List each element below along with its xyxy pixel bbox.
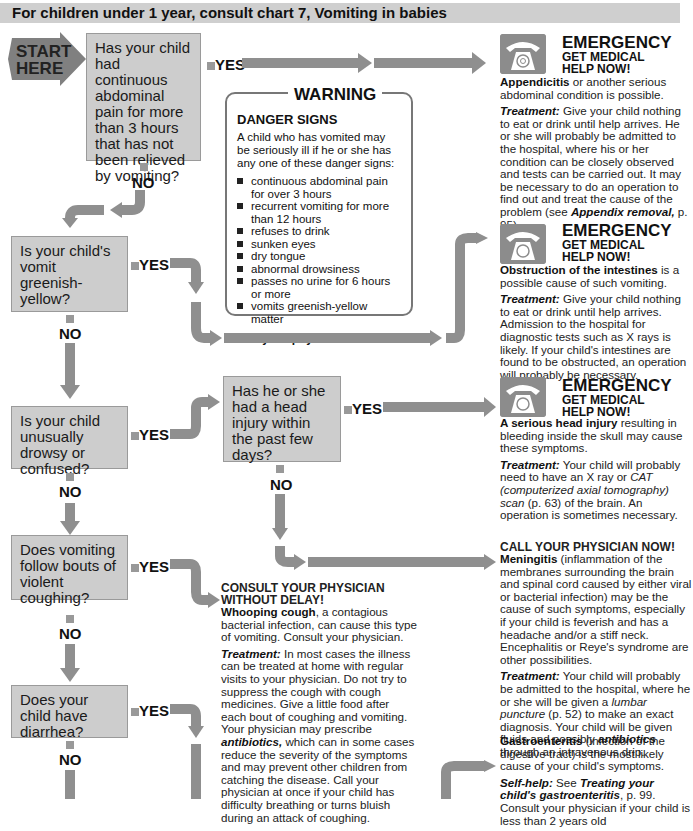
question-diarrhea: Does your child have diarrhea? bbox=[11, 685, 128, 738]
outcome-gastroenteritis: Gastroenteritis (infection of the digest… bbox=[500, 735, 692, 831]
question-drowsy: Is your child unusually drowsy or confus… bbox=[11, 406, 128, 469]
yes-label-q1: YES bbox=[207, 56, 245, 74]
warning-intro: A child who has vomited may be seriously… bbox=[237, 131, 401, 170]
arrow-gastro bbox=[440, 760, 500, 799]
arrow-q1-no bbox=[60, 190, 155, 230]
arrowhead-icon bbox=[60, 521, 80, 535]
arrow-q2-no bbox=[65, 343, 75, 387]
yes-label-q2: YES bbox=[131, 256, 169, 274]
no-label-q1: NO bbox=[132, 175, 155, 190]
arrow-q5-no bbox=[65, 644, 75, 670]
no-label-q6: NO bbox=[59, 752, 82, 767]
yes-label-q4: YES bbox=[344, 400, 382, 418]
arrow-q1-yes bbox=[242, 58, 360, 68]
danger-sign: refuses to drink bbox=[237, 225, 401, 238]
danger-sign: sunken eyes bbox=[237, 238, 401, 251]
arrowhead-icon bbox=[60, 385, 80, 399]
outcome-appendicitis: Appendicitis or another serious abdomina… bbox=[500, 76, 690, 235]
emergency-label-2: EMERGENCY GET MEDICAL HELP NOW! bbox=[562, 222, 672, 263]
outcome-meningitis: CALL YOUR PHYSICIAN NOW! Meningitis (inf… bbox=[500, 541, 692, 763]
yes-label-q5: YES bbox=[131, 558, 169, 576]
no-square bbox=[276, 465, 284, 473]
no-label-q3: NO bbox=[59, 484, 82, 499]
telephone-icon bbox=[500, 34, 546, 74]
outcome-head-injury: A serious head injury resulting in bleed… bbox=[500, 417, 690, 526]
no-label-q5: NO bbox=[59, 626, 82, 641]
arrow-q3-yes bbox=[168, 394, 224, 444]
no-square bbox=[66, 615, 74, 623]
arrow-q4-no bbox=[270, 494, 498, 572]
no-square bbox=[140, 163, 148, 171]
arrow-q1-yes-2 bbox=[374, 58, 474, 68]
warning-title: WARNING bbox=[288, 85, 382, 105]
telephone-icon bbox=[500, 377, 546, 417]
yes-label-q3: YES bbox=[131, 426, 169, 444]
arrow-q5-yes bbox=[168, 558, 228, 610]
arrow-q3-no bbox=[65, 503, 75, 523]
arrow-q6-yes bbox=[168, 704, 208, 799]
outcome-whooping-cough: CONSULT YOUR PHYSICIAN WITHOUT DELAY! Wh… bbox=[221, 582, 417, 828]
arrow-q4-yes bbox=[383, 402, 486, 412]
danger-sign: recurrent vomiting for more than 12 hour… bbox=[237, 200, 401, 225]
arrowhead-icon bbox=[60, 668, 80, 682]
arrowhead-icon bbox=[484, 397, 496, 417]
warning-heading: DANGER SIGNS bbox=[237, 112, 401, 127]
no-square bbox=[66, 315, 74, 323]
no-square bbox=[66, 741, 74, 749]
yes-label-q6: YES bbox=[131, 702, 169, 720]
telephone-icon bbox=[500, 224, 546, 264]
no-label-q2: NO bbox=[59, 326, 82, 341]
question-head-injury: Has he or she had a head injury within t… bbox=[223, 376, 341, 462]
start-label: START HERE bbox=[16, 43, 71, 77]
arrow-q2-yes-up bbox=[440, 232, 490, 344]
no-label-q4: NO bbox=[270, 477, 293, 492]
outcome-obstruction: Obstruction of the intestines is a possi… bbox=[500, 264, 692, 385]
arrowhead-icon bbox=[472, 52, 486, 74]
question-greenish-vomit: Is your child's vomit greenish-yellow? bbox=[11, 236, 128, 312]
danger-sign: continuous abdominal pain for over 3 hou… bbox=[237, 175, 401, 200]
chart-header: For children under 1 year, consult chart… bbox=[0, 3, 680, 23]
question-abdominal-pain: Has your child had continuous abdominal … bbox=[86, 33, 201, 161]
arrow-q6-no bbox=[65, 770, 75, 799]
arrowhead-icon bbox=[358, 53, 372, 73]
question-coughing: Does vomiting follow bouts of violent co… bbox=[11, 535, 128, 600]
emergency-label-3: EMERGENCY GET MEDICAL HELP NOW! bbox=[562, 377, 672, 418]
no-square bbox=[66, 473, 74, 481]
emergency-label-1: EMERGENCY GET MEDICAL HELP NOW! bbox=[562, 34, 672, 75]
